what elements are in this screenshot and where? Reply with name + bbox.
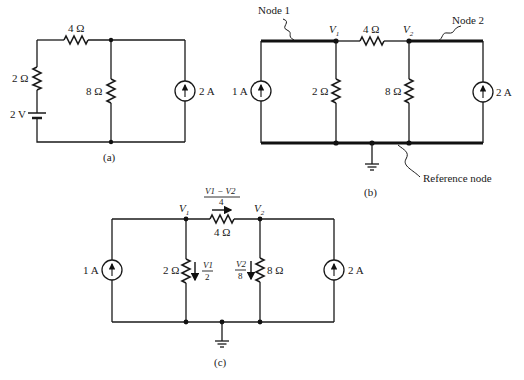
current-source-icon — [473, 82, 493, 102]
label-r-top-c: 4 Ω — [214, 226, 230, 238]
reference-leader — [398, 145, 420, 177]
label-r-top-a: 4 Ω — [68, 22, 84, 34]
label-source-right-b: 2 A — [496, 86, 512, 98]
label-source-left-c: 1 A — [83, 264, 99, 276]
battery-icon — [28, 113, 46, 118]
label-node2: Node 2 — [452, 14, 484, 26]
label-node1: Node 1 — [258, 4, 290, 16]
resistor-2ohm-c — [182, 259, 190, 283]
ground-icon — [365, 143, 379, 170]
label-v2-c: V2 — [254, 202, 265, 217]
label-r-right-c: 8 Ω — [267, 264, 283, 276]
label-source-right-c: 2 A — [348, 264, 364, 276]
label-reference-node: Reference node — [423, 172, 492, 184]
label-r-left-a: 2 Ω — [12, 72, 28, 84]
label-r-left-b: 2 Ω — [312, 85, 328, 97]
label-current-left-num: V1 — [203, 260, 213, 270]
resistor-4ohm-c — [210, 215, 234, 223]
label-source-a: 2 A — [199, 85, 215, 97]
circuit-a: 4 Ω 2 Ω 2 V 8 Ω 2 A (a) — [10, 22, 215, 164]
label-r-right-b: 8 Ω — [385, 85, 401, 97]
node1-leader — [283, 19, 294, 40]
label-r-left-c: 2 Ω — [163, 264, 179, 276]
resistor-4ohm-b — [360, 37, 384, 45]
label-current-top-den: 4 — [219, 197, 224, 207]
resistor-4ohm-a — [64, 36, 88, 44]
circuit-b: Node 1 Node 2 Reference node V1 V2 4 Ω 2… — [232, 4, 512, 199]
current-source-icon — [324, 260, 344, 280]
label-current-left-den: 2 — [205, 272, 210, 282]
node2-leader — [438, 26, 461, 41]
label-r-top-b: 4 Ω — [363, 23, 379, 35]
label-r-mid-a: 8 Ω — [86, 85, 102, 97]
current-source-icon — [102, 260, 122, 280]
circuit-c: V1 − V2 4 V1 2 V2 8 V1 V2 4 Ω 2 Ω 8 Ω 1 … — [83, 186, 364, 369]
ground-icon — [215, 322, 229, 347]
caption-b: (b) — [364, 186, 377, 199]
caption-a: (a) — [103, 151, 116, 164]
resistor-8ohm-c — [256, 258, 264, 282]
label-current-right-num: V2 — [236, 259, 246, 269]
resistor-2ohm-a — [33, 67, 41, 90]
resistor-2ohm-b — [332, 79, 340, 103]
label-source-left-b: 1 A — [232, 85, 248, 97]
label-v1-c: V1 — [179, 202, 189, 217]
label-battery-a: 2 V — [10, 108, 26, 120]
resistor-8ohm-b — [405, 79, 413, 103]
label-v2-b: V2 — [403, 23, 414, 38]
label-v1-b: V1 — [329, 23, 339, 38]
circuit-figure: 4 Ω 2 Ω 2 V 8 Ω 2 A (a) — [0, 0, 524, 380]
label-current-right-den: 8 — [238, 271, 243, 281]
caption-c: (c) — [214, 356, 227, 369]
resistor-8ohm-a — [107, 79, 115, 103]
current-source-icon — [175, 81, 195, 101]
current-source-icon — [251, 81, 271, 101]
label-current-top-num: V1 − V2 — [205, 186, 236, 196]
